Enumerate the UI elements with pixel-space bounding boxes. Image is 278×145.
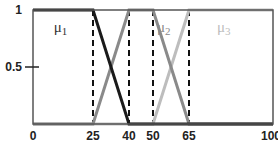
series-label-μ2: μ2 xyxy=(157,19,171,37)
dashed-guides xyxy=(93,10,189,124)
series-label-μ3: μ3 xyxy=(217,19,231,37)
series-line-μ3 xyxy=(33,10,273,124)
x-tick-label: 25 xyxy=(86,129,100,143)
series-lines xyxy=(33,10,273,124)
x-tick-label: 100 xyxy=(261,129,278,143)
y-axis-ticks: 0.51 xyxy=(5,3,39,74)
series-line-μ2 xyxy=(33,10,273,124)
membership-function-chart: 0.51 025405065100 μ1μ2μ3 xyxy=(0,0,278,145)
x-tick-label: 65 xyxy=(182,129,196,143)
y-tick-label: 0.5 xyxy=(5,60,22,74)
x-tick-label: 50 xyxy=(146,129,160,143)
y-tick-label: 1 xyxy=(15,3,22,17)
series-label-μ1: μ1 xyxy=(54,19,68,37)
series-labels: μ1μ2μ3 xyxy=(54,19,231,37)
plot-frame xyxy=(33,10,273,124)
series-line-μ1 xyxy=(33,10,273,124)
x-tick-label: 40 xyxy=(122,129,136,143)
x-axis-ticks: 025405065100 xyxy=(30,129,278,143)
x-tick-label: 0 xyxy=(30,129,37,143)
